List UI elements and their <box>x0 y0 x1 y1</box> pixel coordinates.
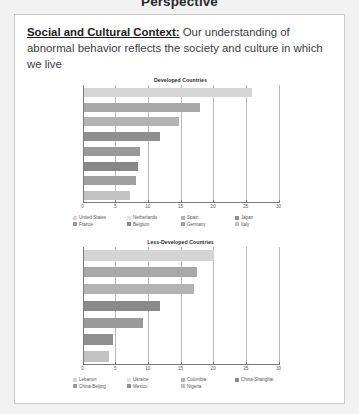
legend-swatch-icon <box>73 378 77 382</box>
tick-mark <box>246 362 247 365</box>
bar-ukraine <box>83 267 197 277</box>
tick-label: 0 <box>81 204 84 209</box>
legend-swatch-icon <box>127 222 131 226</box>
tick-mark <box>279 200 280 203</box>
legend-swatch-icon <box>181 384 185 388</box>
bar-spain <box>83 117 180 126</box>
legend-label: Mexico <box>133 384 147 389</box>
bar-united-states <box>83 88 253 97</box>
bar-italy <box>83 191 131 200</box>
tick-label: 15 <box>178 204 183 209</box>
tick-mark <box>83 200 84 203</box>
bar-netherlands <box>83 103 201 112</box>
developed-countries-legend: United StatesNetherlandsSpainJapanFrance… <box>73 215 288 228</box>
legend-swatch-icon <box>73 216 77 220</box>
legend-item: Colombia <box>181 377 229 382</box>
y-axis <box>83 85 84 203</box>
legend-label: Netherlands <box>133 215 157 220</box>
legend-item: Ukraine <box>127 377 175 382</box>
tick-mark <box>148 362 149 365</box>
tick-mark <box>213 200 214 203</box>
bar-lebanon <box>83 250 215 260</box>
legend-swatch-icon <box>235 222 239 226</box>
legend-label: Lebanon <box>79 377 97 382</box>
legend-swatch-icon <box>181 216 185 220</box>
bar-germany <box>83 176 137 185</box>
tick-label: 15 <box>178 366 183 371</box>
legend-item: Netherlands <box>127 215 175 220</box>
bar-china-shanghai <box>83 301 160 311</box>
developed-countries-title: Developed Countries <box>15 77 345 83</box>
legend-item: Spain <box>181 215 229 220</box>
legend-label: Japan <box>241 215 253 220</box>
grid-line <box>213 85 214 203</box>
tick-label: 10 <box>145 366 150 371</box>
tick-label: 30 <box>276 366 281 371</box>
legend-swatch-icon <box>235 216 239 220</box>
grid-line <box>181 247 182 365</box>
legend-label: Italy <box>241 222 249 227</box>
bar-france <box>83 147 140 156</box>
tick-label: 20 <box>211 204 216 209</box>
tick-mark <box>115 200 116 203</box>
legend-swatch-icon <box>127 384 131 388</box>
bar-mexico <box>83 334 113 344</box>
legend-item: Japan <box>235 215 253 220</box>
tick-label: 0 <box>81 366 84 371</box>
legend-item: Mexico <box>127 384 175 389</box>
tick-mark <box>279 362 280 365</box>
legend-label: Germany <box>187 222 206 227</box>
bar-japan <box>83 132 160 141</box>
tick-label: 5 <box>114 204 117 209</box>
y-axis <box>83 247 84 365</box>
body-lead-in: Social and Cultural Context: <box>27 26 180 38</box>
developed-countries-plot-area <box>83 85 279 203</box>
less-developed-countries-title: Less-Developed Countries <box>15 239 345 245</box>
tick-label: 10 <box>145 204 150 209</box>
bar-china-beijing <box>83 318 143 328</box>
bar-nigeria <box>83 351 110 361</box>
legend-label: Belgium <box>133 222 149 227</box>
less-developed-countries-x-tick-labels: 051015202530 <box>83 365 279 374</box>
body-paragraph: Social and Cultural Context: Our underst… <box>27 24 339 72</box>
tick-label: 25 <box>243 366 248 371</box>
legend-item: Nigeria <box>181 384 229 389</box>
legend-item: France <box>73 222 121 227</box>
less-developed-countries-plot-area <box>83 247 279 365</box>
grid-line <box>213 247 214 365</box>
grid-line <box>246 85 247 203</box>
tick-mark <box>181 362 182 365</box>
legend-label: China-Beijing <box>79 384 106 389</box>
legend-swatch-icon <box>181 378 185 382</box>
bar-belgium <box>83 162 139 171</box>
legend-swatch-icon <box>235 378 239 382</box>
legend-label: Colombia <box>187 377 206 382</box>
tick-label: 30 <box>276 204 281 209</box>
developed-countries-x-tick-labels: 051015202530 <box>83 203 279 212</box>
legend-item: Belgium <box>127 222 175 227</box>
legend-item: Italy <box>235 222 249 227</box>
legend-item: United States <box>73 215 121 220</box>
legend-label: Spain <box>187 215 199 220</box>
legend-item: Germany <box>181 222 229 227</box>
legend-swatch-icon <box>127 216 131 220</box>
legend-label: Nigeria <box>187 384 201 389</box>
legend-swatch-icon <box>181 222 185 226</box>
tick-label: 5 <box>114 366 117 371</box>
tick-label: 25 <box>243 204 248 209</box>
slide-card: Social and Cultural Context: Our underst… <box>14 14 345 404</box>
legend-swatch-icon <box>127 378 131 382</box>
legend-label: Ukraine <box>133 377 149 382</box>
chart-developed-countries: Developed Countries051015202530United St… <box>15 77 345 228</box>
tick-mark <box>213 362 214 365</box>
legend-swatch-icon <box>73 384 77 388</box>
tick-mark <box>181 200 182 203</box>
legend-label: United States <box>79 215 106 220</box>
slide-title: Perspective <box>0 0 359 9</box>
chart-less-developed-countries: Less-Developed Countries051015202530Leba… <box>15 239 345 390</box>
less-developed-countries-legend: LebanonUkraineColombiaChina-ShanghaiChin… <box>73 377 288 390</box>
tick-mark <box>115 362 116 365</box>
tick-label: 20 <box>211 366 216 371</box>
legend-label: France <box>79 222 93 227</box>
bar-colombia <box>83 284 194 294</box>
